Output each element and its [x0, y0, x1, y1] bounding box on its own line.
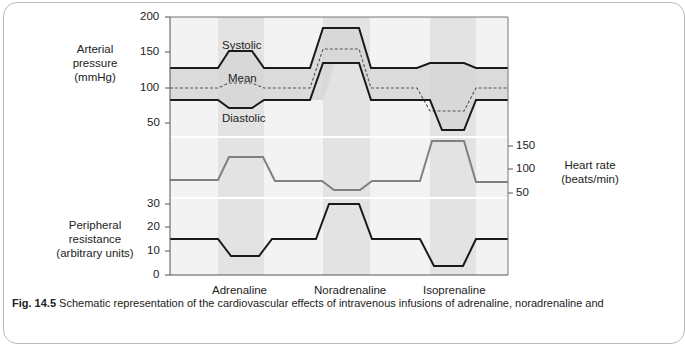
tick-resistance-20: 20	[147, 220, 160, 232]
x-label-isoprenaline: Isoprenaline	[423, 283, 486, 297]
resistance-ticks	[165, 204, 170, 275]
isoprenaline-band	[430, 17, 476, 275]
tick-pressure-200: 200	[140, 10, 159, 22]
hr-axis-label: Heart rate (beats/min)	[540, 158, 640, 186]
tick-pressure-50: 50	[147, 116, 160, 128]
figure-caption: Fig. 14.5 Schematic representation of th…	[12, 297, 604, 309]
tick-hr-50: 50	[516, 186, 529, 198]
mean-label: Mean	[228, 71, 257, 85]
resistance-axis-label: Peripheral resistance (arbitrary units)	[45, 218, 145, 260]
tick-hr-150: 150	[516, 139, 535, 151]
tick-pressure-100: 100	[140, 81, 159, 93]
pressure-ticks	[165, 17, 170, 123]
tick-resistance-30: 30	[147, 197, 160, 209]
caption-prefix: Fig. 14.5	[12, 297, 56, 309]
pressure-axis-label: Arterial pressure (mmHg)	[50, 42, 140, 84]
tick-resistance-0: 0	[153, 268, 159, 280]
systolic-label: Systolic	[222, 38, 262, 52]
tick-resistance-10: 10	[147, 244, 160, 256]
caption-text: Schematic representation of the cardiova…	[59, 297, 604, 309]
diastolic-label: Diastolic	[222, 111, 265, 125]
hr-ticks	[508, 146, 513, 193]
tick-hr-100: 100	[516, 162, 535, 174]
x-label-noradrenaline: Noradrenaline	[314, 283, 386, 297]
x-label-adrenaline: Adrenaline	[212, 283, 267, 297]
tick-pressure-150: 150	[140, 45, 159, 57]
